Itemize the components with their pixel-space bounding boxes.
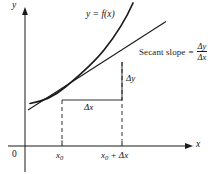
y-axis-label: y — [12, 1, 16, 11]
curve-label: y = f(x) — [86, 10, 115, 20]
x-axis-arrowhead — [185, 143, 193, 149]
delta-y-label: Δy — [126, 74, 135, 83]
fraction-numerator: Δy — [197, 42, 208, 51]
tick-label-x0-subscript: 0 — [60, 154, 63, 161]
x-axis-label: x — [196, 140, 200, 150]
origin-label: 0 — [12, 150, 17, 160]
tick-label-x0-plus-dx: x0 + Δx — [101, 151, 128, 161]
function-curve — [30, 3, 133, 104]
tick-label-x0: x0 — [56, 151, 63, 161]
secant-line-figure: y x 0 y = f(x) Δy Δx x0 x0 + Δx Secant s… — [0, 0, 208, 174]
delta-y-over-delta-x-fraction: Δy Δx — [197, 42, 208, 61]
secant-slope-text: Secant slope — [139, 47, 185, 57]
y-axis-arrowhead — [22, 7, 28, 15]
figure-canvas — [0, 0, 208, 174]
secant-slope-annotation: Secant slope = Δy Δx — [139, 42, 207, 61]
secant-line — [28, 22, 166, 111]
tick-label-x0-plus-dx-suffix: + Δx — [108, 150, 128, 160]
equals-sign: = — [188, 47, 193, 57]
fraction-denominator: Δx — [197, 52, 208, 61]
delta-x-label: Δx — [84, 103, 93, 112]
